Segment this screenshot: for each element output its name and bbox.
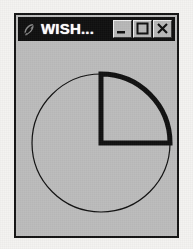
window-controls [113,20,172,38]
minimize-icon [114,21,131,37]
wish-feather-icon[interactable] [21,21,38,38]
title-bar[interactable]: WISH... [18,17,175,41]
canvas-drawing [18,41,175,234]
pie-wedge-arc [101,74,170,143]
wish-application-window: WISH... [14,13,179,238]
maximize-icon [134,21,151,37]
tk-canvas[interactable] [18,41,175,234]
minimize-button[interactable] [113,20,132,38]
close-icon [154,21,171,37]
maximize-button[interactable] [133,20,152,38]
window-title: WISH... [41,17,113,41]
close-button[interactable] [153,20,172,38]
